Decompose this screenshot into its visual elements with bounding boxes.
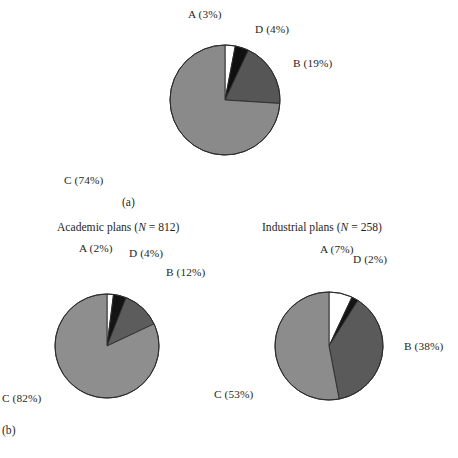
pie-title-industrial: Industrial plans (N = 258) xyxy=(262,221,382,234)
pie-title-industrial-suffix: = 258) xyxy=(348,221,382,234)
pie-chart-overall xyxy=(169,44,281,156)
slice-label-industrial-A: A (7%) xyxy=(320,243,354,255)
slice-label-industrial-B: B (38%) xyxy=(404,340,443,352)
pie-title-academic-suffix: = 812) xyxy=(146,221,180,234)
slice-label-a-D: D (4%) xyxy=(255,23,289,35)
slice-label-academic-C: C (82%) xyxy=(2,392,41,404)
pie-chart-figure: A (3%) D (4%) B (19%) C (74%) (a) Academ… xyxy=(0,0,458,458)
pie-chart-academic xyxy=(54,293,160,399)
slice-label-academic-D: D (4%) xyxy=(129,247,163,259)
slice-label-academic-B: B (12%) xyxy=(166,266,205,278)
pie-title-industrial-prefix: Industrial plans ( xyxy=(262,221,341,234)
slice-label-industrial-C: C (53%) xyxy=(214,388,253,400)
slice-label-a-B: B (19%) xyxy=(293,57,332,69)
slice-label-a-A: A (3%) xyxy=(188,8,222,20)
panel-a: A (3%) D (4%) B (19%) C (74%) (a) xyxy=(0,0,458,215)
pie-title-academic-n-symbol: N xyxy=(138,221,146,234)
pie-title-academic-prefix: Academic plans ( xyxy=(57,221,138,234)
slice-label-academic-A: A (2%) xyxy=(79,242,113,254)
panel-caption-b: (b) xyxy=(2,424,16,437)
pie-industrial-svg xyxy=(274,291,384,401)
slice-label-industrial-D: D (2%) xyxy=(353,253,387,265)
panel-caption-a: (a) xyxy=(122,196,135,209)
pie-title-academic: Academic plans (N = 812) xyxy=(57,221,179,234)
panel-b: Academic plans (N = 812) A (2%) D (4%) B… xyxy=(0,215,458,458)
pie-overall-svg xyxy=(169,44,281,156)
pie-chart-industrial xyxy=(274,291,384,401)
pie-academic-svg xyxy=(54,293,160,399)
slice-label-a-C: C (74%) xyxy=(64,174,103,186)
